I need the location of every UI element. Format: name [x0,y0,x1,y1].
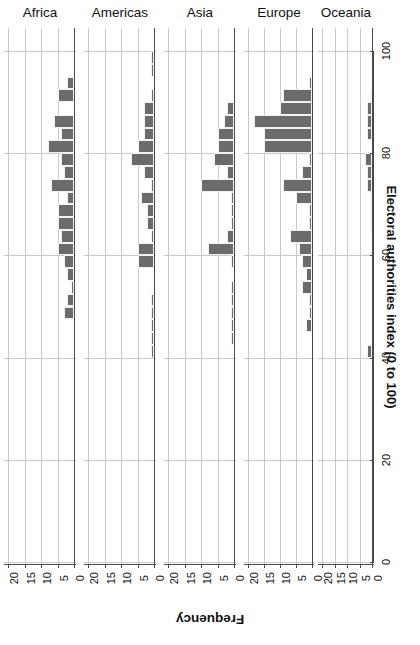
gridline-horizontal [318,460,374,461]
histogram-bar [58,204,75,217]
gridline-vertical [248,28,249,566]
axis-spine-frequency-zero [312,28,313,566]
frequency-tick-label: 10 [347,565,359,591]
tick-mark [168,564,169,568]
gridline-horizontal [244,562,314,563]
frequency-tick-label: 0 [234,565,246,591]
frequency-tick-label: 15 [185,565,197,591]
plot-area [84,28,156,566]
tick-mark [138,564,139,568]
histogram-bar [254,115,312,128]
tick-mark [88,564,89,568]
gridline-horizontal [318,562,374,563]
frequency-tick-labels: 2015105020151050201510502015105020151050 [0,566,420,608]
gridline-horizontal [164,562,236,563]
histogram-bar [144,166,154,179]
tick-mark [370,562,374,563]
histogram-bar [201,179,234,192]
tick-mark [248,564,249,568]
frequency-tick-label: 5 [58,565,70,591]
histogram-bar [61,128,74,141]
frequency-tick-label: 0 [154,565,166,591]
frequency-tick-label: 20 [168,565,180,591]
histogram-bar [67,192,74,205]
panel-americas [84,28,156,566]
histogram-bar [302,281,312,294]
gridline-vertical [41,28,42,566]
tick-mark [312,564,313,568]
frequency-tick-label: 20 [248,565,260,591]
gridline-horizontal [84,562,156,563]
histogram-bar [227,102,234,115]
gridline-vertical [360,28,361,566]
tick-mark [74,564,75,568]
gridline-horizontal [4,51,76,52]
panel-title-row: AfricaAmericasAsiaEuropeOceania [0,0,420,28]
tick-mark [201,564,202,568]
histogram-bar [58,243,75,256]
panel-africa [4,28,76,566]
frequency-tick-label: 20 [8,565,20,591]
frequency-tick-label: 5 [296,565,308,591]
gridline-vertical [88,28,89,566]
histogram-bar [138,243,155,256]
histogram-bar [64,166,74,179]
frequency-tick-label: 15 [25,565,37,591]
histogram-bar [138,255,155,268]
gridline-horizontal [318,358,374,359]
histogram-bar [131,153,154,166]
tick-mark [58,564,59,568]
gridline-vertical [347,28,348,566]
gridline-horizontal [164,255,236,256]
axis-spine-index [373,51,374,562]
frequency-tick-label: 20 [88,565,100,591]
panel-asia [164,28,236,566]
panel-title-americas: Americas [84,2,156,24]
gridline-vertical [168,28,169,566]
y-axis-title: Electoral authorities index (0 to 100) [381,28,399,566]
gridline-vertical [58,28,59,566]
histogram-bar [218,140,235,153]
histogram-bar [67,77,74,90]
tick-mark [322,564,323,568]
gridline-horizontal [4,562,76,563]
frequency-tick-label: 10 [280,565,292,591]
gridline-horizontal [84,460,156,461]
histogram-bar [299,243,312,256]
histogram-bar [302,166,312,179]
gridline-vertical [8,28,9,566]
tick-mark [121,564,122,568]
frequency-tick-label: 20 [322,565,334,591]
histogram-bar [214,153,234,166]
histogram-bar [138,140,155,153]
gridline-vertical [25,28,26,566]
histogram-bar [144,128,154,141]
plot-area [318,28,374,566]
histogram-bar [227,166,234,179]
histogram-bar [280,102,312,115]
histogram-bar [48,140,74,153]
gridline-horizontal [244,460,314,461]
frequency-tick-label: 10 [201,565,213,591]
histogram-bar [61,153,74,166]
chart-root: AfricaAmericasAsiaEuropeOceania 20151050… [0,0,420,645]
plot-area [164,28,236,566]
histogram-bar [67,268,74,281]
panel-oceania [318,28,374,566]
frequency-tick-label: 5 [360,565,372,591]
frequency-tick-label: 5 [138,565,150,591]
panel-title-oceania: Oceania [318,2,374,24]
tick-mark [360,564,361,568]
histogram-bar [58,89,75,102]
histogram-bar [227,230,234,243]
histogram-bar [141,192,154,205]
histogram-bar [224,115,234,128]
gridline-horizontal [4,460,76,461]
histogram-bar [218,128,235,141]
axis-spine-frequency-zero [234,28,235,566]
tick-mark [335,564,336,568]
histogram-bar [302,255,312,268]
gridline-vertical [335,28,336,566]
histogram-bar [147,204,154,217]
gridline-horizontal [164,51,236,52]
